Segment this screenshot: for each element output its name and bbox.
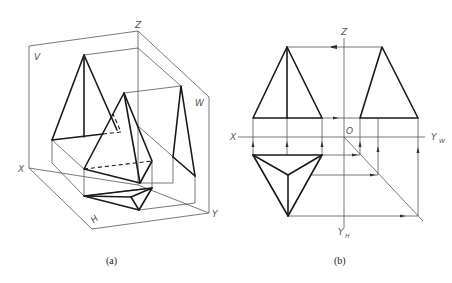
projection-figure: Z V W X H Y (a): [0, 0, 452, 283]
caption-a: (a): [106, 255, 117, 267]
figure-a-pictorial: Z V W X H Y (a): [17, 20, 219, 267]
label-w: W: [195, 98, 205, 108]
front-view: [253, 47, 322, 118]
miter-line: [344, 137, 423, 221]
label-v: V: [34, 52, 41, 62]
h-projection: [84, 188, 152, 210]
figure-b-orthographic: Z X O Y W Y H (b): [229, 27, 446, 267]
projection-lines: [52, 48, 195, 210]
label-x-a: X: [17, 164, 25, 174]
central-pyramid: [84, 93, 152, 183]
label-o: O: [346, 126, 353, 136]
label-yh-sub: H: [345, 232, 350, 239]
label-yw-sub: W: [439, 137, 446, 144]
w-projection-triangle: [173, 86, 195, 176]
caption-b: (b): [334, 255, 346, 267]
side-view: [360, 47, 418, 118]
label-x-b: X: [229, 132, 237, 142]
w-plane: [138, 31, 209, 213]
top-view: [253, 155, 322, 216]
label-z-a: Z: [134, 20, 142, 30]
label-yh: Y: [338, 227, 345, 237]
label-z-b: Z: [340, 27, 348, 37]
label-y-a: Y: [212, 209, 219, 219]
projection-connectors: [253, 47, 418, 216]
label-h: H: [89, 213, 101, 225]
label-yw: Y: [431, 132, 438, 142]
